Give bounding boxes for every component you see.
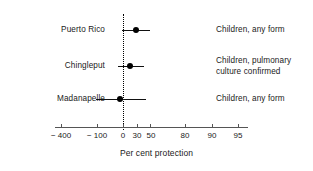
point-estimate-puerto-rico	[133, 27, 139, 33]
annotation-chingleput: Children, pulmonary culture confirmed	[216, 56, 291, 77]
x-axis-tick	[185, 124, 186, 127]
point-estimate-madanapelle	[117, 96, 123, 102]
x-axis-tick	[212, 124, 213, 127]
x-axis-tick-label: 30	[133, 131, 142, 140]
study-label-chingleput: Chingleput	[0, 61, 105, 70]
annotation-line: Children, any form	[216, 25, 285, 36]
x-axis-tick-label: 90	[208, 131, 217, 140]
annotation-line: Children, pulmonary	[216, 56, 291, 67]
forest-plot: Puerto Rico Children, any form Chinglepu…	[0, 0, 313, 171]
x-axis-tick-label: 80	[181, 131, 190, 140]
annotation-madanapelle: Children, any form	[216, 94, 285, 105]
x-axis-tick-label: 0	[121, 131, 125, 140]
x-axis-tick	[123, 124, 124, 127]
study-label-puerto-rico: Puerto Rico	[0, 25, 105, 34]
x-axis-tick-label: 50	[147, 131, 156, 140]
x-axis-tick	[150, 124, 151, 127]
x-axis-line	[55, 127, 248, 128]
annotation-line: Children, any form	[216, 94, 285, 105]
x-axis-title: Per cent protection	[0, 148, 313, 158]
study-label-madanapelle: Madanapelle	[0, 94, 105, 103]
x-axis-tick-label: − 400	[51, 131, 71, 140]
point-estimate-chingleput	[127, 63, 133, 69]
x-axis-tick-label: − 100	[87, 131, 107, 140]
x-axis-tick	[97, 124, 98, 127]
null-effect-line	[123, 14, 124, 130]
annotation-puerto-rico: Children, any form	[216, 25, 285, 36]
x-axis-tick	[238, 124, 239, 127]
x-axis-tick	[137, 124, 138, 127]
x-axis-tick	[61, 124, 62, 127]
annotation-line: culture confirmed	[216, 67, 291, 78]
x-axis-tick-label: 95	[234, 131, 243, 140]
